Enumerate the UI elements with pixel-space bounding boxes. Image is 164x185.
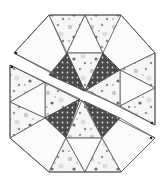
quilt-block-diagram bbox=[0, 0, 164, 185]
lower-right-marker-dot bbox=[150, 137, 153, 140]
upper-left-marker-dot bbox=[15, 52, 18, 55]
lower-left-marker-dot bbox=[11, 66, 14, 69]
upper-right-marker-dot bbox=[151, 122, 154, 125]
